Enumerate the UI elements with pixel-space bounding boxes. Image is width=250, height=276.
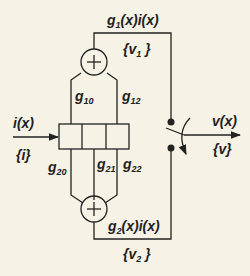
bottom-branch-signal-label: g2(x)i(x) [107,218,160,236]
switch-rotation-arrow [182,118,190,154]
output-set-label: {v} [213,141,232,157]
output-signal-label: v(x) [212,113,237,129]
path-g20 [71,149,83,203]
gain-g21-label: g21 [96,156,116,174]
input-set-label: {i} [16,147,31,163]
switch-blade [166,128,184,135]
bottom-branch-set-label: {v2 } [123,246,151,264]
top-adder [81,49,107,75]
signal-flow-diagram: i(x) {i} v(x) {v} g1(x)i(x) {v1 } g2(x)i… [0,0,250,276]
gain-g12-label: g12 [121,88,141,106]
top-branch-set-label: {v1 } [123,41,151,59]
gain-g20-label: g20 [47,159,67,177]
path-g12 [107,73,117,124]
gain-g10-label: g10 [74,88,94,106]
gain-g22-label: g22 [122,156,142,174]
splitter-block [59,124,129,149]
input-signal-label: i(x) [13,115,34,131]
bottom-switch-contact [168,145,175,152]
top-branch-signal-label: g1(x)i(x) [106,12,159,30]
path-g22 [105,149,117,203]
top-switch-contact [168,119,175,126]
